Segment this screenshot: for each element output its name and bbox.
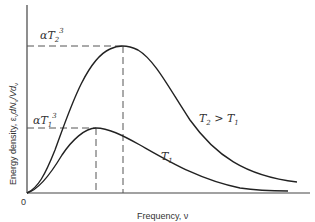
planck-distribution-diagram: αT23 αT13 T2 > T1 T1 0 Frequency, ν Ener… (0, 0, 315, 222)
peak2-label: αT23 (40, 27, 64, 44)
chart-canvas: αT23 αT13 T2 > T1 T1 0 Frequency, ν Ener… (0, 0, 315, 222)
curve-t2 (27, 46, 297, 193)
origin-label: 0 (21, 197, 26, 207)
curve1-label: T1 (161, 150, 173, 165)
x-axis-label: Frequency, ν (137, 211, 189, 221)
y-axis-label: Energy density, ενdNν/Vdν (8, 83, 19, 185)
peak1-label: αT13 (33, 112, 57, 129)
curve2-label: T2 > T1 (199, 112, 239, 127)
curve-t1 (27, 128, 288, 193)
